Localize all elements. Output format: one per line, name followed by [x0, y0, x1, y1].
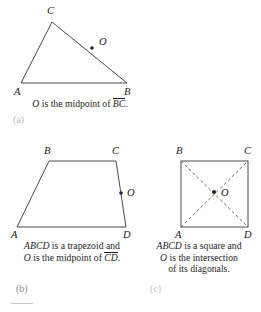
triangle-caption-mid: is the midpoint of	[39, 98, 112, 109]
square-vertex-label-a: A	[174, 229, 182, 240]
triangle-vertex-label-b: B	[124, 86, 131, 97]
trapezoid-vertex-label-c: C	[112, 145, 120, 156]
square-caption-name: ABCD	[156, 240, 181, 251]
square-vertex-label-d: D	[243, 229, 252, 240]
square-point-o-label: O	[221, 187, 229, 198]
trapezoid-caption: ABCD is a trapezoid and O is the midpoin…	[8, 240, 136, 263]
square-caption-mid: is the intersection	[167, 252, 238, 263]
square-caption-line1: ABCD is a square and	[140, 240, 258, 252]
triangle-figure: C A B O	[0, 0, 150, 100]
trapezoid-caption-segment: CD	[104, 252, 117, 264]
trapezoid-vertex-label-a: A	[10, 229, 18, 240]
trapezoid-caption-name: ABCD	[24, 240, 49, 251]
square-caption-line3: of its diagonals.	[140, 263, 258, 275]
square-caption-line2: O is the intersection	[140, 252, 258, 264]
sublabel-c: (c)	[150, 283, 161, 294]
square-vertex-label-b: B	[176, 145, 183, 156]
trapezoid-caption-desc: is a trapezoid and	[49, 240, 119, 251]
trapezoid-vertex-label-d: D	[122, 229, 131, 240]
trapezoid-figure: B C D A O	[0, 140, 140, 245]
scan-artifact-line	[11, 303, 33, 304]
trapezoid-caption-end: .	[118, 252, 120, 263]
triangle-caption-end: .	[125, 98, 127, 109]
triangle-shape	[21, 22, 127, 83]
square-figure: B C D A O	[140, 140, 261, 245]
triangle-caption: O is the midpoint of BC.	[0, 98, 160, 110]
triangle-point-o-label: O	[99, 36, 107, 47]
geometry-figure-page: C A B O O is the midpoint of BC. (a) B C…	[0, 0, 261, 312]
triangle-vertex-label-a: A	[13, 86, 21, 97]
triangle-midpoint-dot	[90, 46, 94, 50]
trapezoid-caption-line1: ABCD is a trapezoid and	[8, 240, 136, 252]
square-intersection-dot	[212, 190, 216, 194]
trapezoid-caption-line2: O is the midpoint of CD.	[8, 252, 136, 264]
trapezoid-point-o-label: O	[127, 187, 135, 198]
square-vertex-label-c: C	[244, 145, 252, 156]
sublabel-a: (a)	[13, 114, 24, 125]
triangle-caption-segment: BC	[113, 98, 125, 110]
sublabel-b: (b)	[16, 283, 28, 294]
trapezoid-shape	[17, 161, 126, 227]
trapezoid-midpoint-dot	[119, 191, 123, 195]
trapezoid-vertex-label-b: B	[44, 145, 51, 156]
trapezoid-caption-point: O	[24, 252, 31, 263]
triangle-vertex-label-c: C	[47, 5, 55, 16]
trapezoid-caption-mid: is the midpoint of	[31, 252, 104, 263]
square-caption-desc: is a square and	[182, 240, 242, 251]
square-caption: ABCD is a square and O is the intersecti…	[140, 240, 258, 275]
